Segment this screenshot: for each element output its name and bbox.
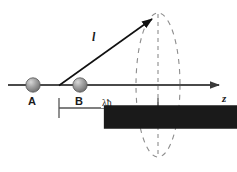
atom-a-label: A (28, 96, 36, 107)
vector-overbar-arrow-icon (92, 31, 237, 172)
physics-diagram: A B z λħ l (0, 0, 237, 172)
vector-l-label: l (92, 31, 95, 43)
atom-b-sphere (73, 78, 87, 92)
atom-b-label: B (75, 96, 83, 107)
atom-a-sphere (26, 78, 40, 92)
